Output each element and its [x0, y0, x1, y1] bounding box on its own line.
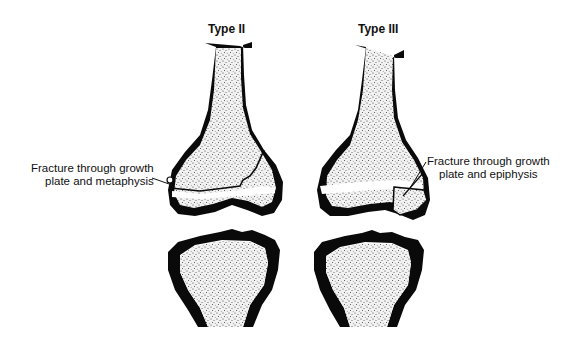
type3-femur	[317, 45, 430, 220]
annotation-type2-line1: Fracture through growth	[31, 162, 154, 175]
annotation-type3: Fracture through growth plate and epiphy…	[427, 155, 550, 181]
type3-tibia	[314, 230, 424, 327]
annotation-type2: Fracture through growth plate and metaph…	[31, 162, 154, 188]
type2-femur	[167, 42, 283, 216]
annotation-type2-line2: plate and metaphysis	[31, 175, 154, 188]
annotation-type3-line1: Fracture through growth	[427, 155, 550, 168]
annotation-type3-line2: plate and epiphysis	[427, 168, 550, 181]
type2-tibia	[168, 229, 280, 327]
panel-title-type3: Type III	[358, 22, 398, 36]
panel-title-type2: Type II	[208, 22, 245, 36]
